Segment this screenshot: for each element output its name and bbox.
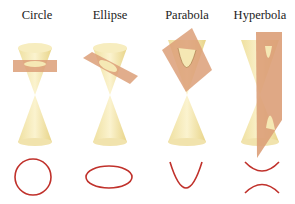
panel-circle: Circle xyxy=(0,0,74,204)
panel-ellipse: Ellipse xyxy=(73,0,147,204)
panel-hyperbola: Hyperbola xyxy=(223,0,295,204)
label-parabola: Parabola xyxy=(150,8,224,23)
panel-parabola: Parabola xyxy=(150,0,224,204)
label-hyperbola: Hyperbola xyxy=(223,8,295,23)
label-ellipse: Ellipse xyxy=(73,8,147,23)
label-circle: Circle xyxy=(0,8,74,23)
